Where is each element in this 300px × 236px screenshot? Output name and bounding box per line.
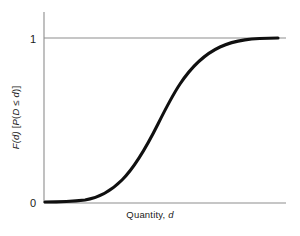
y-tick-label-zero: 0 — [30, 197, 36, 209]
y-label-p-symbol: P — [10, 119, 21, 126]
y-label-paren-open: ( — [10, 116, 21, 119]
y-label-d-upper: D — [10, 108, 21, 115]
cdf-curve-path — [45, 38, 278, 202]
y-label-d-lower: d — [10, 92, 21, 97]
y-label-f-arg: (d) — [10, 131, 21, 143]
plot-canvas: 1 0 — [0, 0, 300, 236]
y-axis-label: F(d) [P(D ≤ d)] — [10, 23, 21, 213]
y-tick-label-one: 1 — [30, 33, 36, 45]
y-label-paren-close: ) — [10, 89, 21, 92]
y-label-f-symbol: F — [10, 143, 21, 149]
cdf-figure: 1 0 Quantity, d F(d) [P(D ≤ d)] — [0, 0, 300, 236]
y-label-bracket-close: ] — [10, 86, 21, 89]
x-axis-label-text: Quantity, — [126, 209, 168, 220]
y-axis-label-container: F(d) [P(D ≤ d)] — [0, 0, 26, 236]
x-axis-label: Quantity, d — [0, 209, 300, 220]
x-axis-label-variable: d — [168, 209, 173, 220]
y-label-bracket-open: [ — [10, 125, 21, 128]
y-label-relation: ≤ — [10, 97, 21, 108]
